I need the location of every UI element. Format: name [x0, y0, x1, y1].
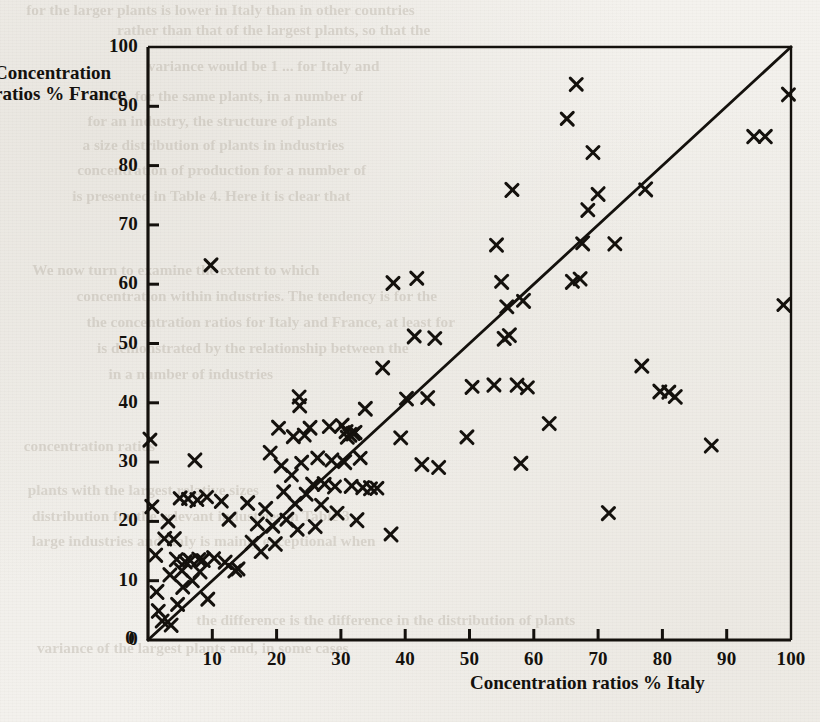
data-point [587, 147, 599, 159]
data-point [466, 380, 478, 393]
data-point [385, 528, 397, 541]
data-point [260, 502, 272, 515]
data-point [294, 400, 306, 412]
x-tick-label-40: 40 [375, 648, 435, 670]
y-tick-label-90: 90 [60, 94, 138, 116]
data-point [518, 294, 530, 307]
data-point [255, 545, 267, 557]
data-point [162, 515, 174, 528]
data-point [387, 277, 399, 290]
data-point [570, 78, 582, 90]
x-tick-label-90: 90 [697, 648, 757, 670]
data-point [215, 495, 227, 507]
x-tick-label-20: 20 [247, 648, 307, 670]
x-tick-label-60: 60 [504, 648, 564, 670]
data-point [351, 514, 363, 527]
data-point [515, 457, 527, 469]
data-point [316, 498, 328, 511]
data-point [561, 112, 573, 125]
data-point [778, 298, 790, 311]
data-point [636, 360, 648, 372]
data-point [150, 549, 162, 561]
x-tick-label-10: 10 [182, 648, 242, 670]
y-tick-label-50: 50 [60, 332, 138, 354]
data-point [285, 469, 297, 482]
data-point [172, 598, 184, 610]
data-point [296, 456, 308, 469]
data-point [328, 480, 340, 493]
data-point [189, 454, 201, 467]
data-point [491, 239, 503, 251]
y-tick-label-60: 60 [60, 272, 138, 294]
y-tick-label-10: 10 [60, 569, 138, 591]
data-point [496, 275, 508, 288]
data-point [609, 238, 621, 250]
data-point [208, 552, 220, 565]
data-point [331, 507, 343, 519]
data-point [408, 330, 420, 343]
data-point [205, 259, 217, 272]
data-point [543, 418, 555, 430]
data-point [273, 421, 285, 434]
data-point [416, 458, 428, 470]
data-point [264, 446, 276, 459]
data-point [304, 421, 316, 434]
data-point [168, 533, 180, 546]
data-point [269, 538, 281, 551]
data-point [582, 204, 594, 217]
y-tick-label-20: 20 [60, 509, 138, 531]
data-point [640, 183, 652, 196]
data-point [506, 183, 518, 196]
data-point [411, 272, 423, 284]
data-point [602, 507, 614, 520]
data-point [242, 497, 254, 510]
data-point [461, 431, 473, 444]
data-point [433, 461, 445, 473]
data-point [309, 521, 321, 533]
data-point [267, 520, 279, 532]
data-point [359, 402, 371, 415]
data-point [194, 566, 206, 578]
y-tick-label-40: 40 [60, 391, 138, 413]
data-point [223, 513, 235, 526]
data-point [521, 381, 533, 394]
data-point [705, 439, 717, 452]
data-point [251, 518, 263, 530]
data-point [669, 391, 681, 404]
y-axis-title-line1: Concentration [0, 62, 126, 83]
data-point [422, 392, 434, 405]
y-tick-label-100: 100 [60, 35, 138, 57]
data-point [278, 486, 290, 498]
x-tick-label-100: 100 [761, 648, 820, 670]
x-tick-label-0: 0 [100, 627, 160, 649]
data-point [164, 569, 176, 581]
data-point [312, 452, 324, 464]
data-point [748, 130, 760, 142]
y-tick-label-30: 30 [60, 450, 138, 472]
scatter-chart: Concentration ratios % France Concentrat… [0, 0, 820, 722]
y-tick-label-70: 70 [60, 213, 138, 235]
identity-reference-line [148, 47, 791, 640]
data-point [291, 523, 303, 536]
x-tick-label-80: 80 [632, 648, 692, 670]
data-point [354, 452, 366, 465]
data-point [323, 421, 335, 433]
data-point [151, 585, 163, 598]
y-tick-label-80: 80 [60, 154, 138, 176]
data-point [503, 329, 515, 342]
x-tick-label-50: 50 [440, 648, 500, 670]
data-point [326, 454, 338, 467]
data-point [144, 433, 156, 446]
x-tick-label-70: 70 [568, 648, 628, 670]
data-point [488, 379, 500, 391]
data-point [759, 130, 771, 142]
x-axis-title: Concentration ratios % Italy [470, 672, 705, 693]
x-tick-label-30: 30 [311, 648, 371, 670]
data-point-markers [144, 78, 794, 631]
data-point [782, 88, 794, 101]
data-point [377, 362, 389, 374]
data-point [202, 593, 214, 605]
data-point [395, 432, 407, 444]
data-point [592, 188, 604, 201]
data-point [429, 332, 441, 345]
